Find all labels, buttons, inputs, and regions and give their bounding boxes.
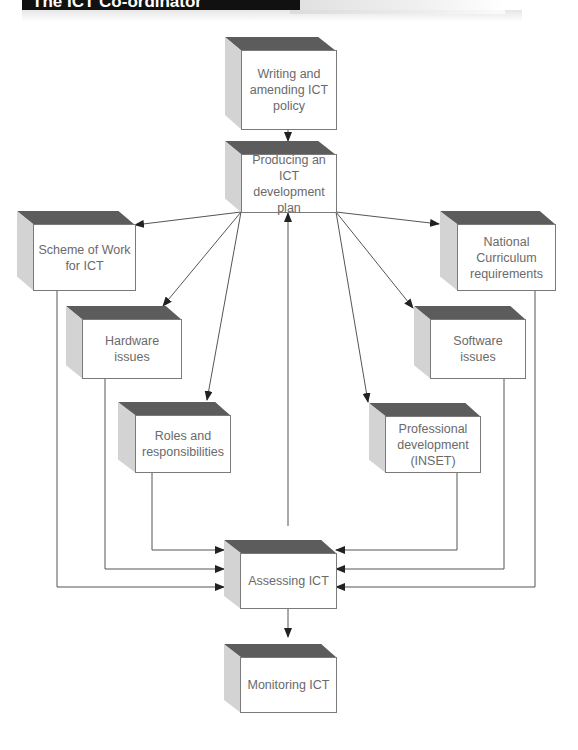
box-top-face [66,306,182,320]
box-side-face [225,37,242,130]
edge-plan-to-software [336,212,413,308]
edge-roles-to-assessing [152,472,224,550]
box-top-face [17,211,135,225]
box-top-face [440,211,556,225]
node-label: Assessing ICT [240,553,337,609]
box-top-face [118,402,231,416]
box-top-face [225,37,336,51]
node-label: Software issues [430,319,526,379]
edge-plan-to-scheme [135,212,241,225]
node-label: Monitoring ICT [240,657,337,713]
node-label: Writing and amending ICT policy [241,50,337,130]
box-top-face [369,403,481,417]
box-top-face [414,306,526,320]
node-label: Producing an ICT development plan [241,154,337,213]
edge-plan-to-professional [336,212,368,402]
edge-plan-to-hardware [163,212,241,306]
node-label: Professional development (INSET) [385,416,481,473]
node-label: Roles and responsibilities [135,415,231,473]
node-label: National Curriculum requirements [457,224,556,291]
edge-plan-to-roles [207,212,241,400]
edge-plan-to-national [336,212,439,224]
box-top-face [224,540,337,554]
edge-professional-to-assessing [336,472,457,550]
node-label: Hardware issues [82,319,182,379]
box-top-face [224,644,337,658]
node-label: Scheme of Work for ICT [33,224,136,291]
